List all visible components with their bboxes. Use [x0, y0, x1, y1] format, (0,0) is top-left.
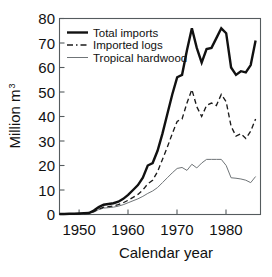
y-tick-label: 30 [38, 133, 55, 150]
y-axis-ticks [60, 19, 65, 215]
y-tick-label: 70 [38, 35, 55, 52]
legend-label-tropical-hardwood: Tropical hardwood [93, 52, 187, 64]
y-tick-label: 0 [47, 206, 55, 223]
y-tick-label: 10 [38, 182, 55, 199]
y-axis-title-superscript: 3 [7, 83, 17, 88]
y-axis-title-main: Million m [6, 89, 23, 148]
y-tick-label: 50 [38, 84, 55, 101]
y-axis-title: Million m3 [6, 83, 23, 148]
y-axis-title-text: Million m3 [6, 83, 23, 148]
line-chart: 80 70 60 50 40 30 20 10 0 1950 1960 1970… [0, 0, 272, 277]
x-tick-label: 1980 [209, 221, 242, 238]
x-tick-label: 1970 [160, 221, 193, 238]
chart-figure: 80 70 60 50 40 30 20 10 0 1950 1960 1970… [0, 0, 272, 277]
y-tick-label: 60 [38, 59, 55, 76]
x-axis-tick-labels: 1950 1960 1970 1980 [62, 221, 242, 238]
y-tick-label: 80 [38, 10, 55, 27]
x-tick-label: 1960 [111, 221, 144, 238]
legend-label-total-imports: Total imports [93, 27, 158, 39]
y-tick-label: 40 [38, 108, 55, 125]
chart-legend: Total imports Imported logs Tropical har… [67, 27, 187, 64]
legend-label-imported-logs: Imported logs [93, 39, 163, 51]
x-axis-title: Calendar year [119, 244, 213, 261]
y-axis-tick-labels: 80 70 60 50 40 30 20 10 0 [38, 10, 55, 223]
x-axis-ticks [79, 210, 226, 215]
series-line-tropical-hardwood [60, 159, 256, 214]
x-tick-label: 1950 [62, 221, 95, 238]
y-tick-label: 20 [38, 157, 55, 174]
